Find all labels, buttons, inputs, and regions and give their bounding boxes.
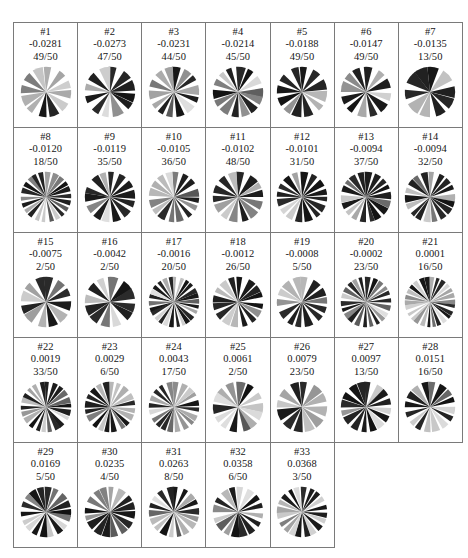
pinwheel-cell[interactable]: #320.03586/50: [206, 443, 270, 548]
component-value-label: -0.0147: [350, 38, 383, 50]
empty-cell: [398, 443, 462, 548]
pinwheel-cell[interactable]: #15-0.00752/50: [14, 233, 78, 338]
pinwheel-cell-inner: #12-0.010131/50: [271, 128, 334, 232]
pinwheel-cell[interactable]: #270.009713/50: [334, 338, 398, 443]
pinwheel-cell[interactable]: #17-0.001620/50: [142, 233, 206, 338]
pinwheel-cell-inner: #5-0.018849/50: [271, 23, 334, 127]
component-index-label: #15: [38, 236, 54, 248]
component-value-label: -0.0281: [29, 38, 62, 50]
component-count-label: 2/50: [36, 261, 55, 273]
pinwheel-glyph-icon: [340, 171, 392, 223]
pinwheel-cell[interactable]: #280.015116/50: [398, 338, 462, 443]
component-value-label: -0.0094: [414, 143, 447, 155]
pinwheel-glyph-icon: [212, 486, 264, 538]
component-count-label: 23/50: [354, 261, 378, 273]
component-value-label: -0.0273: [93, 38, 126, 50]
pinwheel-cell[interactable]: #240.004317/50: [142, 338, 206, 443]
pinwheel-cell[interactable]: #9-0.011935/50: [78, 128, 142, 233]
component-count-label: 13/50: [418, 51, 442, 63]
component-value-label: -0.0002: [350, 248, 383, 260]
pinwheel-cell[interactable]: #330.03683/50: [270, 443, 334, 548]
component-value-label: 0.0263: [159, 458, 188, 470]
component-index-label: #28: [422, 341, 438, 353]
pinwheel-cell[interactable]: #260.007923/50: [270, 338, 334, 443]
component-count-label: 16/50: [418, 261, 442, 273]
pinwheel-cell-inner: #8-0.012018/50: [14, 128, 77, 232]
pinwheel-cell-inner: #320.03586/50: [206, 443, 269, 547]
pinwheel-glyph-icon: [212, 276, 264, 328]
pinwheel-cell[interactable]: #8-0.012018/50: [14, 128, 78, 233]
component-value-label: 0.0235: [95, 458, 124, 470]
pinwheel-cell[interactable]: #230.00296/50: [78, 338, 142, 443]
component-count-label: 31/50: [290, 156, 314, 168]
pinwheel-cell-inner: #330.03683/50: [271, 443, 334, 547]
pinwheel-cell[interactable]: #290.01695/50: [14, 443, 78, 548]
pinwheel-cell[interactable]: #1-0.028149/50: [14, 23, 78, 128]
component-value-label: -0.0135: [414, 38, 447, 50]
component-index-label: #9: [104, 131, 115, 143]
pinwheel-glyph-icon: [276, 66, 328, 118]
component-index-label: #24: [166, 341, 182, 353]
pinwheel-cell[interactable]: #7-0.013513/50: [398, 23, 462, 128]
pinwheel-glyph-icon: [340, 66, 392, 118]
pinwheel-cell[interactable]: #250.00612/50: [206, 338, 270, 443]
component-count-label: 2/50: [100, 261, 119, 273]
pinwheel-cell-inner: #270.009713/50: [335, 338, 398, 442]
pinwheel-glyph-icon: [20, 276, 72, 328]
component-value-label: 0.0097: [351, 353, 380, 365]
component-value-label: -0.0094: [350, 143, 383, 155]
pinwheel-grid-table: #1-0.028149/50#2-0.027347/50#3-0.023144/…: [13, 22, 463, 548]
component-index-label: #17: [166, 236, 182, 248]
pinwheel-cell[interactable]: #20-0.000223/50: [334, 233, 398, 338]
pinwheel-cell[interactable]: #6-0.014749/50: [334, 23, 398, 128]
component-index-label: #7: [425, 26, 436, 38]
component-value-label: 0.0169: [31, 458, 60, 470]
component-count-label: 32/50: [418, 156, 442, 168]
pinwheel-grid-row: #8-0.012018/50#9-0.011935/50#10-0.010536…: [14, 128, 463, 233]
component-index-label: #5: [297, 26, 308, 38]
component-count-label: 45/50: [226, 51, 250, 63]
component-index-label: #22: [38, 341, 54, 353]
pinwheel-cell[interactable]: #14-0.009432/50: [398, 128, 462, 233]
component-count-label: 26/50: [226, 261, 250, 273]
pinwheel-glyph-icon: [276, 171, 328, 223]
pinwheel-cell[interactable]: #12-0.010131/50: [270, 128, 334, 233]
pinwheel-cell[interactable]: #220.001933/50: [14, 338, 78, 443]
pinwheel-cell[interactable]: #19-0.00085/50: [270, 233, 334, 338]
pinwheel-cell-inner: #9-0.011935/50: [78, 128, 141, 232]
pinwheel-cell-inner: #230.00296/50: [78, 338, 141, 442]
pinwheel-glyph-icon: [84, 171, 136, 223]
pinwheel-cell[interactable]: #13-0.009437/50: [334, 128, 398, 233]
pinwheel-cell[interactable]: #2-0.027347/50: [78, 23, 142, 128]
pinwheel-glyph-icon: [340, 381, 392, 433]
pinwheel-cell[interactable]: #300.02354/50: [78, 443, 142, 548]
component-value-label: -0.0016: [157, 248, 190, 260]
component-index-label: #6: [361, 26, 372, 38]
component-count-label: 49/50: [354, 51, 378, 63]
pinwheel-cell-inner: #16-0.00422/50: [78, 233, 141, 337]
pinwheel-cell[interactable]: #11-0.010248/50: [206, 128, 270, 233]
component-index-label: #30: [102, 446, 118, 458]
pinwheel-cell-inner: #10-0.010536/50: [142, 128, 205, 232]
component-index-label: #32: [230, 446, 246, 458]
pinwheel-cell[interactable]: #3-0.023144/50: [142, 23, 206, 128]
pinwheel-cell[interactable]: #4-0.021445/50: [206, 23, 270, 128]
pinwheel-cell[interactable]: #18-0.001226/50: [206, 233, 270, 338]
pinwheel-cell[interactable]: #210.000116/50: [398, 233, 462, 338]
component-index-label: #11: [230, 131, 246, 143]
pinwheel-glyph-icon: [148, 276, 200, 328]
component-count-label: 49/50: [33, 51, 57, 63]
pinwheel-cell[interactable]: #5-0.018849/50: [270, 23, 334, 128]
pinwheel-cell[interactable]: #10-0.010536/50: [142, 128, 206, 233]
component-value-label: -0.0231: [157, 38, 190, 50]
pinwheel-glyph-icon: [20, 171, 72, 223]
component-count-label: 5/50: [36, 471, 55, 483]
component-index-label: #10: [166, 131, 182, 143]
pinwheel-cell[interactable]: #310.02638/50: [142, 443, 206, 548]
pinwheel-cell-inner: #14-0.009432/50: [399, 128, 462, 232]
pinwheel-cell-inner: #7-0.013513/50: [399, 23, 462, 127]
pinwheel-cell[interactable]: #16-0.00422/50: [78, 233, 142, 338]
pinwheel-grid-row: #220.001933/50#230.00296/50#240.004317/5…: [14, 338, 463, 443]
component-count-label: 35/50: [97, 156, 121, 168]
component-value-label: -0.0012: [221, 248, 254, 260]
